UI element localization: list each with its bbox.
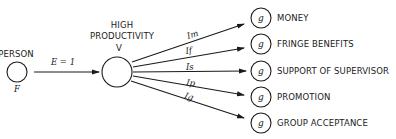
outcome-symbol: g — [258, 92, 264, 102]
productivity-circle — [102, 57, 132, 87]
person-symbol: F — [13, 84, 21, 94]
expectancy-diagram: PERSON F E = 1 HIGH PRODUCTIVITY V Im If… — [0, 0, 396, 139]
effort-arrow: E = 1 — [34, 57, 99, 72]
person-circle — [7, 62, 27, 82]
instrumentality-money: Im — [185, 28, 200, 41]
outcome-group-acceptance: g GROUP ACCEPTANCE — [251, 113, 368, 133]
productivity-symbol: V — [116, 43, 122, 53]
outcome-label: PROMOTION — [277, 92, 330, 102]
outcome-symbol: g — [258, 13, 264, 23]
outcome-support-of-supervisor: g SUPPORT OF SUPERVISOR — [251, 61, 389, 81]
instrumentality-group: Ig — [182, 90, 195, 103]
outcome-promotion: g PROMOTION — [251, 87, 330, 107]
outcome-symbol: g — [258, 39, 264, 49]
outcome-label: MONEY — [277, 13, 309, 23]
instrumentality-supervisor: Is — [185, 62, 194, 72]
outcome-symbol: g — [258, 66, 264, 76]
outcome-label: FRINGE BENEFITS — [277, 39, 354, 49]
outcome-money: g MONEY — [251, 8, 309, 28]
effort-label: E = 1 — [50, 57, 75, 67]
productivity-node: HIGH PRODUCTIVITY V — [90, 20, 155, 87]
outcome-symbol: g — [258, 118, 264, 128]
person-node: PERSON F — [0, 49, 34, 94]
instrumentality-fringe: If — [184, 45, 195, 56]
productivity-label-line1: HIGH — [111, 20, 133, 30]
productivity-label-line2: PRODUCTIVITY — [90, 31, 155, 41]
person-label: PERSON — [0, 49, 34, 59]
outcome-fringe-benefits: g FRINGE BENEFITS — [251, 34, 354, 54]
outcome-label: SUPPORT OF SUPERVISOR — [277, 66, 389, 76]
outcome-label: GROUP ACCEPTANCE — [277, 118, 368, 128]
